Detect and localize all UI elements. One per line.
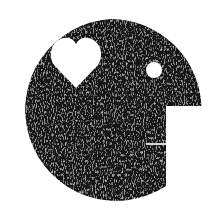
face-logo-graphic [0, 0, 218, 216]
face-shape [0, 0, 218, 216]
circle-eye-icon [146, 62, 162, 78]
face-logo: face-profile-logo [0, 0, 218, 216]
mouth-line [146, 143, 166, 145]
